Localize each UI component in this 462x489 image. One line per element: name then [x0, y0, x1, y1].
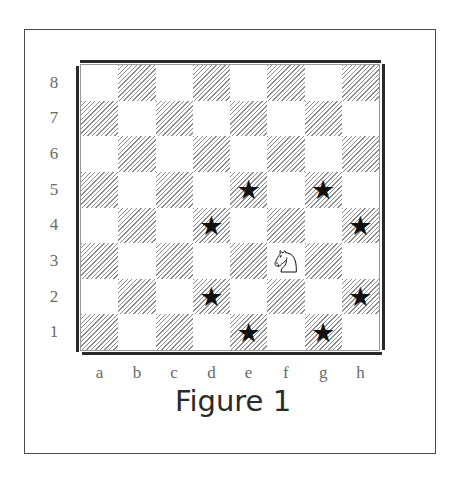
- rank-label-7: 7: [44, 109, 64, 126]
- square-f3: [267, 243, 304, 279]
- square-g2: [305, 279, 342, 315]
- square-b7: [118, 101, 155, 137]
- file-label-d: d: [201, 364, 221, 381]
- square-g4: [305, 208, 342, 244]
- square-e8: [230, 65, 267, 101]
- square-a1: [81, 314, 118, 350]
- square-a8: [81, 65, 118, 101]
- figure-caption: Figure 1: [0, 384, 462, 419]
- square-c5: [156, 172, 193, 208]
- square-h3: [342, 243, 379, 279]
- square-d1: [193, 314, 230, 350]
- star-icon: ★: [311, 319, 335, 346]
- square-c3: [156, 243, 193, 279]
- square-f1: [267, 314, 304, 350]
- square-a2: [81, 279, 118, 315]
- rank-label-2: 2: [44, 288, 64, 305]
- square-b5: [118, 172, 155, 208]
- square-d4: ★: [193, 208, 230, 244]
- square-d5: [193, 172, 230, 208]
- square-h7: [342, 101, 379, 137]
- white-knight-icon: [271, 246, 301, 276]
- square-e5: ★: [230, 172, 267, 208]
- square-g5: ★: [305, 172, 342, 208]
- star-icon: ★: [199, 283, 223, 310]
- square-b8: [118, 65, 155, 101]
- square-h2: ★: [342, 279, 379, 315]
- star-icon: ★: [311, 176, 335, 203]
- square-a3: [81, 243, 118, 279]
- square-c2: [156, 279, 193, 315]
- square-f7: [267, 101, 304, 137]
- rank-label-4: 4: [44, 216, 64, 233]
- square-g6: [305, 136, 342, 172]
- square-e4: [230, 208, 267, 244]
- square-f2: [267, 279, 304, 315]
- square-b1: [118, 314, 155, 350]
- square-e2: [230, 279, 267, 315]
- square-g8: [305, 65, 342, 101]
- square-h6: [342, 136, 379, 172]
- square-a5: [81, 172, 118, 208]
- file-label-e: e: [239, 364, 259, 381]
- square-c7: [156, 101, 193, 137]
- file-label-h: h: [350, 364, 370, 381]
- square-d2: ★: [193, 279, 230, 315]
- square-f4: [267, 208, 304, 244]
- file-label-c: c: [164, 364, 184, 381]
- square-c6: [156, 136, 193, 172]
- rank-label-1: 1: [44, 323, 64, 340]
- square-h8: [342, 65, 379, 101]
- square-h5: [342, 172, 379, 208]
- square-b3: [118, 243, 155, 279]
- square-f8: [267, 65, 304, 101]
- file-label-g: g: [313, 364, 333, 381]
- square-g3: [305, 243, 342, 279]
- square-h1: [342, 314, 379, 350]
- square-d3: [193, 243, 230, 279]
- square-b6: [118, 136, 155, 172]
- square-g7: [305, 101, 342, 137]
- chessboard: ★★★★★★★★: [80, 64, 380, 351]
- square-g1: ★: [305, 314, 342, 350]
- square-a7: [81, 101, 118, 137]
- star-icon: ★: [199, 212, 223, 239]
- square-b2: [118, 279, 155, 315]
- file-label-b: b: [127, 364, 147, 381]
- board-edge-left: [76, 66, 79, 352]
- square-d6: [193, 136, 230, 172]
- square-b4: [118, 208, 155, 244]
- square-a6: [81, 136, 118, 172]
- square-c8: [156, 65, 193, 101]
- square-d7: [193, 101, 230, 137]
- rank-label-6: 6: [44, 145, 64, 162]
- board-edge-top: [80, 60, 381, 63]
- star-icon: ★: [348, 283, 372, 310]
- rank-label-5: 5: [44, 181, 64, 198]
- square-d8: [193, 65, 230, 101]
- square-f6: [267, 136, 304, 172]
- rank-label-8: 8: [44, 74, 64, 91]
- star-icon: ★: [237, 319, 261, 346]
- star-icon: ★: [237, 176, 261, 203]
- square-f5: [267, 172, 304, 208]
- star-icon: ★: [348, 212, 372, 239]
- square-c1: [156, 314, 193, 350]
- square-e3: [230, 243, 267, 279]
- square-c4: [156, 208, 193, 244]
- file-label-a: a: [90, 364, 110, 381]
- rank-label-3: 3: [44, 252, 64, 269]
- square-h4: ★: [342, 208, 379, 244]
- board-edge-bottom: [82, 352, 382, 355]
- file-label-f: f: [276, 364, 296, 381]
- square-a4: [81, 208, 118, 244]
- square-e1: ★: [230, 314, 267, 350]
- board-edge-right: [382, 64, 385, 350]
- square-e6: [230, 136, 267, 172]
- square-e7: [230, 101, 267, 137]
